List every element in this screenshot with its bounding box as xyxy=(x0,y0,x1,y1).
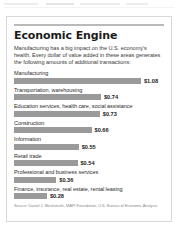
bar-value-label: $0.55 xyxy=(82,144,96,150)
bar-line: $0.74 xyxy=(14,94,164,101)
bar-row: Transportation, warehousing$0.74 xyxy=(14,87,164,101)
bar-fill xyxy=(14,78,141,84)
bar-line: $0.66 xyxy=(14,127,164,134)
bar-value-label: $0.54 xyxy=(81,160,95,166)
bar-row: Finance, insurance, real estate, rental … xyxy=(14,186,164,200)
bar-value-label: $0.28 xyxy=(50,193,64,199)
card-intro-text: Manufacturing has a big impact on the U.… xyxy=(14,45,164,66)
page-root: Economic Engine Manufacturing has a big … xyxy=(0,0,179,233)
bar-line: $0.28 xyxy=(14,193,164,200)
bleed-line xyxy=(4,7,174,8)
bar-line: $1.08 xyxy=(14,77,164,84)
bar-line: $0.73 xyxy=(14,110,164,117)
page-top-bleed xyxy=(0,0,179,13)
bar-row: Information$0.55 xyxy=(14,136,164,150)
bar-category-label: Construction xyxy=(14,120,164,127)
bar-value-label: $0.66 xyxy=(95,127,109,133)
bleed-line xyxy=(80,3,120,5)
bar-category-label: Information xyxy=(14,136,164,143)
bar-value-label: $1.08 xyxy=(144,78,158,84)
bar-category-label: Professional and business services xyxy=(14,169,164,176)
card-title: Economic Engine xyxy=(14,30,164,42)
bar-line: $0.54 xyxy=(14,160,164,167)
bar-fill xyxy=(14,127,92,133)
bar-row: Manufacturing$1.08 xyxy=(14,70,164,84)
bar-chart: Manufacturing$1.08Transportation, wareho… xyxy=(14,70,164,200)
bar-line: $0.36 xyxy=(14,176,164,183)
bar-fill xyxy=(14,144,79,150)
bar-row: Construction$0.66 xyxy=(14,120,164,134)
bar-value-label: $0.36 xyxy=(59,177,73,183)
bar-category-label: Retail trade xyxy=(14,153,164,160)
title-top-rule xyxy=(14,24,164,26)
bar-value-label: $0.73 xyxy=(103,111,117,117)
source-note: Source: Daniel J. Meckstroth, MAPI Found… xyxy=(14,203,164,208)
bleed-line xyxy=(4,3,38,5)
bar-category-label: Manufacturing xyxy=(14,70,164,77)
bar-row: Retail trade$0.54 xyxy=(14,153,164,167)
bleed-line xyxy=(46,3,74,5)
bar-line: $0.55 xyxy=(14,143,164,150)
bar-fill xyxy=(14,94,101,100)
bar-row: Education services, health care, social … xyxy=(14,103,164,117)
bar-fill xyxy=(14,193,47,199)
bar-fill xyxy=(14,111,100,117)
bar-value-label: $0.74 xyxy=(104,94,118,100)
bar-fill xyxy=(14,177,56,183)
bar-row: Professional and business services$0.36 xyxy=(14,169,164,183)
bar-category-label: Transportation, warehousing xyxy=(14,87,164,94)
bar-category-label: Education services, health care, social … xyxy=(14,103,164,110)
infographic-card: Economic Engine Manufacturing has a big … xyxy=(6,16,172,222)
bar-fill xyxy=(14,160,78,166)
bar-category-label: Finance, insurance, real estate, rental … xyxy=(14,186,164,193)
bleed-line xyxy=(126,3,148,5)
